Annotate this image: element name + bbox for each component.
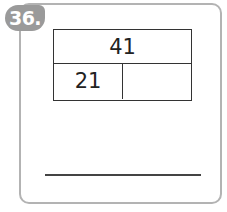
part-whole-model: 41 21	[53, 29, 192, 101]
answer-line[interactable]	[45, 174, 201, 176]
known-part-cell: 21	[54, 64, 123, 99]
problem-number-badge: 36.	[5, 5, 45, 31]
whole-cell: 41	[54, 30, 191, 64]
unknown-part-cell[interactable]	[123, 64, 190, 99]
